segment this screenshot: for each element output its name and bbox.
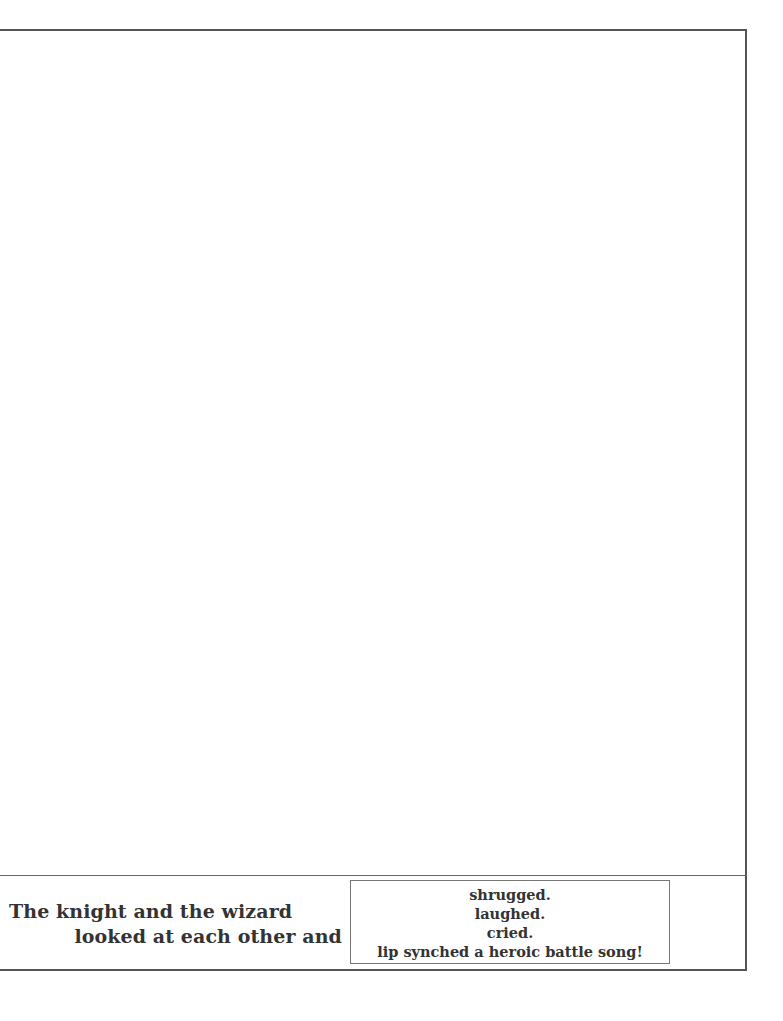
frame-bottom-border <box>0 969 747 971</box>
story-prompt-line-2: looked at each other and <box>74 925 342 947</box>
choice-lip-synched[interactable]: lip synched a heroic battle song! <box>377 942 643 961</box>
choice-laughed[interactable]: laughed. <box>475 904 546 923</box>
story-prompt-line-1: The knight and the wizard <box>9 900 292 922</box>
scene-text-divider <box>0 875 747 876</box>
choice-cried[interactable]: cried. <box>487 923 533 942</box>
choice-box: shrugged. laughed. cried. lip synched a … <box>350 880 670 964</box>
story-scene-area <box>0 31 745 876</box>
choice-shrugged[interactable]: shrugged. <box>469 885 551 904</box>
frame-right-border <box>745 29 747 971</box>
